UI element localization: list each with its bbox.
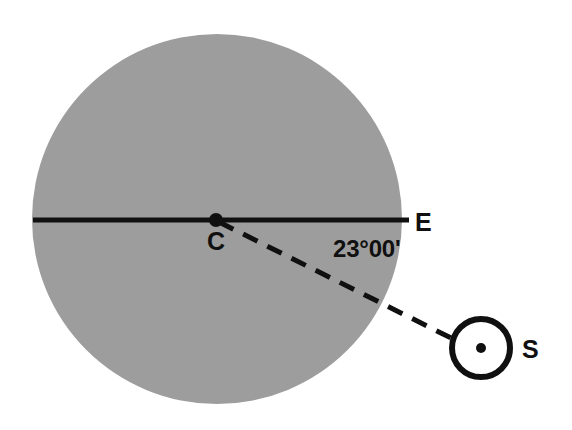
earth-center-dot — [209, 213, 223, 227]
label-earth-center: C — [207, 227, 225, 255]
label-equator-end: E — [415, 208, 432, 236]
sun-center-dot — [476, 343, 486, 353]
label-sun: S — [522, 335, 539, 363]
label-angle-value: 23°00' — [333, 235, 401, 262]
earth-sun-diagram: C E S 23°00' — [0, 0, 572, 430]
diagram-canvas: C E S 23°00' — [0, 0, 572, 430]
